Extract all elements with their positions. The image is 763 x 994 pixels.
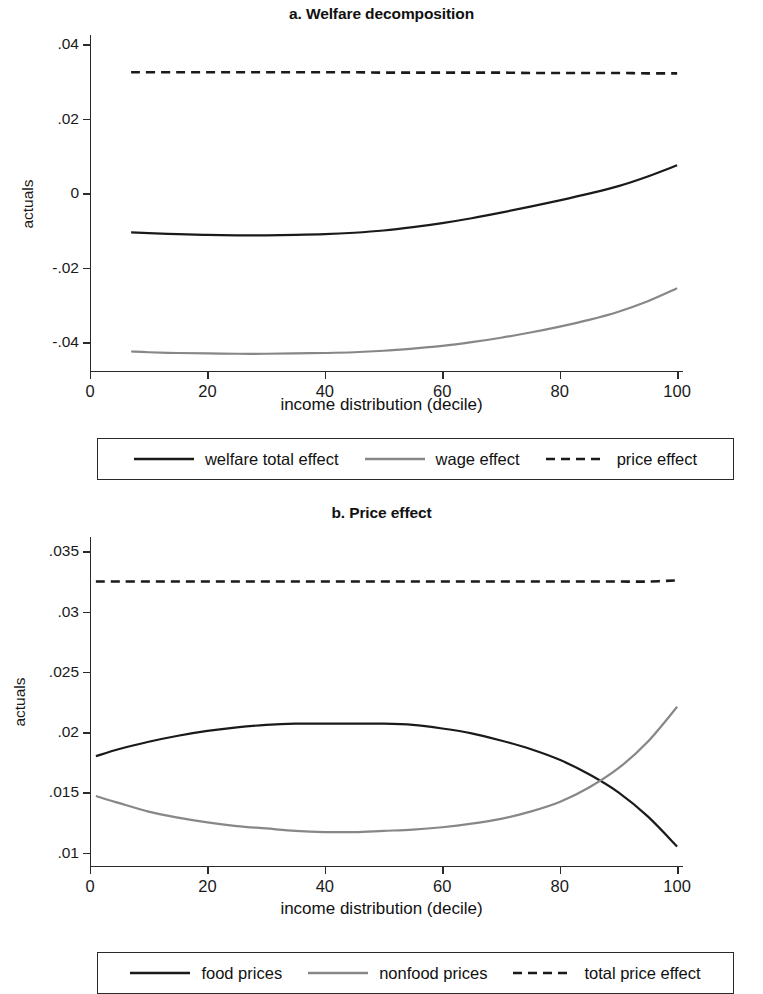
panel-b-title: b. Price effect [0,504,763,522]
y-tick-mark [83,732,90,733]
y-tick-label: -.02 [52,259,79,277]
x-tick-mark [325,372,326,379]
series-line-wage-effect [131,288,677,354]
y-tick-mark [83,792,90,793]
legend-line-swatch [130,966,190,980]
legend-line-swatch [308,966,368,980]
y-tick-mark [83,268,90,269]
y-tick-label: .01 [57,843,79,861]
legend-label: nonfood prices [379,964,487,983]
x-tick-mark [442,867,443,874]
y-tick-mark [83,551,90,552]
plot-area-a: actuals .04.020-.02-.04020406080100 [90,35,683,372]
x-tick-mark [560,372,561,379]
y-tick-mark [83,342,90,343]
y-tick-label: .035 [49,542,79,560]
panel-welfare-decomposition: a. Welfare decomposition actuals .04.020… [0,0,763,494]
y-tick-label: 0 [70,184,79,202]
x-tick-mark [560,867,561,874]
series-line-welfare-total-effect [131,165,677,235]
x-tick-mark [207,372,208,379]
legend-item[interactable]: food prices [130,964,282,983]
x-tick-mark [442,372,443,379]
legend-label: wage effect [436,450,520,469]
x-tick-mark [325,867,326,874]
legend-label: welfare total effect [205,450,339,469]
legend-item[interactable]: price effect [546,450,697,469]
legend-label: food prices [201,964,282,983]
legend-b: food pricesnonfood pricestotal price eff… [97,952,734,994]
legend-item[interactable]: total price effect [513,964,700,983]
y-axis-title-b: actuals [11,677,29,726]
x-tick-mark [90,372,91,379]
series-line-price-effect [131,72,677,73]
legend-line-swatch [513,966,573,980]
x-tick-mark [677,867,678,874]
panel-price-effect: b. Price effect actuals .035.03.025.02.0… [0,494,763,994]
y-tick-label: -.04 [52,333,79,351]
y-tick-mark [83,119,90,120]
legend-label: price effect [617,450,697,469]
y-tick-mark [83,672,90,673]
legend-a: welfare total effectwage effectprice eff… [97,438,734,480]
series-line-total-price-effect [96,580,677,581]
legend-item[interactable]: nonfood prices [308,964,487,983]
y-axis-title-a: actuals [19,179,37,228]
legend-line-swatch [134,452,194,466]
legend-line-swatch [546,452,606,466]
panel-a-title: a. Welfare decomposition [0,5,763,23]
y-tick-label: .04 [57,35,79,53]
y-tick-mark [83,193,90,194]
x-tick-label: 60 [433,877,451,896]
x-tick-label: 100 [663,877,691,896]
y-tick-label: .025 [49,663,79,681]
x-axis-title-a: income distribution (decile) [0,395,763,415]
y-tick-label: .02 [57,723,79,741]
x-tick-mark [90,867,91,874]
x-tick-label: 0 [85,877,94,896]
x-axis-title-b: income distribution (decile) [0,899,763,919]
plot-area-b: actuals .035.03.025.02.015.0102040608010… [90,537,683,867]
y-tick-mark [83,853,90,854]
curves-a [90,35,683,372]
series-line-nonfood-prices [96,707,677,832]
legend-item[interactable]: wage effect [365,450,520,469]
curves-b [90,537,683,867]
x-tick-label: 80 [551,877,569,896]
legend-line-swatch [365,452,425,466]
legend-label: total price effect [584,964,700,983]
y-tick-label: .02 [57,110,79,128]
y-tick-mark [83,612,90,613]
series-line-food-prices [96,724,677,847]
legend-item[interactable]: welfare total effect [134,450,339,469]
y-tick-mark [83,44,90,45]
x-tick-mark [677,372,678,379]
x-tick-label: 40 [316,877,334,896]
y-tick-label: .015 [49,783,79,801]
y-tick-label: .03 [57,602,79,620]
x-tick-mark [207,867,208,874]
x-tick-label: 20 [198,877,216,896]
